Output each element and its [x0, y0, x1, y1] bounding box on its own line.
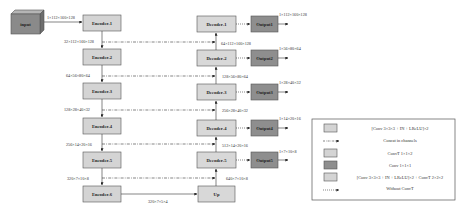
encoder-column: Encoder-1 Encoder-2 Encoder-3 Encoder-4 … — [64, 15, 169, 204]
legend-item-6: Without ConvT — [386, 186, 414, 191]
output-4-dims: 1×14×20×16 — [279, 116, 301, 121]
legend-encoder-swatch — [324, 124, 337, 132]
decoder-5-label: Decoder-5 — [207, 158, 228, 163]
input-block: input — [11, 10, 44, 34]
legend-item-4: Conv 1×1×1 — [389, 163, 411, 168]
output-4-label: Output4 — [256, 126, 273, 131]
decoder-1-dims: 64×112×160×128 — [221, 41, 251, 46]
decoder-2-dims: 128×56×80×64 — [222, 74, 249, 79]
legend-item-3: ConvT 1×1×2 — [388, 151, 413, 156]
legend-item-1: [Conv 3×3×3 + IN + LReLU]×2 — [371, 126, 428, 131]
decoder-1-label: Decoder-1 — [207, 22, 228, 27]
encoder-4-label: Encoder-4 — [92, 124, 113, 129]
encoder-5-dims: 320×7×10×8 — [67, 176, 89, 181]
encoder-3-dims: 128×28×40×32 — [64, 107, 90, 112]
decoder-3-dims: 256×28×40×32 — [222, 108, 248, 113]
output-column: Output1 Output2 Output3 Output4 Output5 … — [251, 12, 307, 168]
legend-convt-swatch — [324, 149, 337, 157]
unet-architecture-diagram: input 1×112×160×128 Encoder-1 Encoder-2 … — [0, 0, 468, 215]
decoder-2-label: Decoder-2 — [207, 56, 228, 61]
encoder-1-dims: 32×112×160×128 — [64, 39, 94, 44]
decoder-4-dims: 512×14×20×16 — [222, 143, 248, 148]
legend-conv-swatch — [324, 161, 337, 169]
output-3-dims: 1×28×40×32 — [279, 80, 301, 85]
legend: [Conv 3×3×3 + IN + LReLU]×2 Concat in ch… — [312, 119, 455, 200]
legend-item-5: [Conv 3×3×3 + IN + LReLU]×2 + ConvT 2×2×… — [357, 175, 444, 180]
up-label: Up — [214, 192, 220, 197]
encoder-4-dims: 256×14×20×16 — [66, 142, 92, 147]
output-1-label: Output1 — [256, 22, 273, 27]
encoder-6-dims: 320×7×5×4 — [148, 199, 169, 204]
decoder-3-label: Decoder-3 — [207, 90, 228, 95]
input-dims: 1×112×160×128 — [47, 15, 75, 20]
encoder-1-label: Encoder-1 — [92, 21, 113, 26]
output-1-dims: 1×112×160×128 — [279, 12, 307, 17]
legend-decoder-swatch — [324, 173, 337, 181]
output-5-label: Output5 — [256, 158, 273, 163]
decoder-4-label: Decoder-4 — [207, 126, 228, 131]
encoder-2-dims: 64×56×80×64 — [66, 73, 91, 78]
input-label: input — [20, 22, 31, 27]
output-2-dims: 1×56×80×64 — [279, 46, 302, 51]
encoder-6-label: Encoder-6 — [92, 192, 113, 197]
encoder-5-label: Encoder-5 — [92, 158, 113, 163]
decoder-5-dims: 640×7×10×8 — [226, 176, 248, 181]
output-2-label: Output2 — [256, 56, 273, 61]
encoder-3-label: Encoder-3 — [92, 89, 113, 94]
legend-item-2: Concat in channels — [383, 138, 417, 143]
output-5-dims: 1×7×10×8 — [279, 149, 297, 154]
output-3-label: Output3 — [256, 90, 273, 95]
encoder-2-label: Encoder-2 — [92, 55, 113, 60]
decoder-column: Decoder-1 Decoder-2 Decoder-3 Decoder-4 … — [197, 16, 251, 202]
